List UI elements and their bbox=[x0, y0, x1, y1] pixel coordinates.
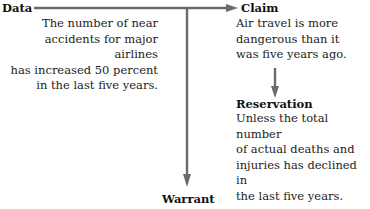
claim-arrowhead-icon bbox=[226, 4, 238, 12]
warrant-arrowhead-icon bbox=[183, 174, 191, 187]
data-label: Data bbox=[2, 2, 32, 15]
warrant-label: Warrant bbox=[162, 193, 215, 206]
data-text-line: The number of near bbox=[8, 16, 158, 32]
reservation-label: Reservation bbox=[236, 98, 313, 111]
claim-text-line: was five years ago. bbox=[236, 47, 366, 63]
claim-text-line: Air travel is more bbox=[236, 16, 366, 32]
reservation-text-line: injuries has declined in bbox=[236, 158, 370, 189]
data-text-line: has increased 50 percent bbox=[8, 63, 158, 79]
claim-label: Claim bbox=[241, 2, 279, 15]
data-text: The number of near accidents for major a… bbox=[8, 16, 158, 94]
reservation-text-line: the last five years. bbox=[236, 189, 370, 205]
reservation-text: Unless the total number of actual deaths… bbox=[236, 111, 370, 204]
data-text-line: accidents for major airlines bbox=[8, 32, 158, 63]
claim-text: Air travel is more dangerous than it was… bbox=[236, 16, 366, 63]
reservation-text-line: Unless the total number bbox=[236, 111, 370, 142]
reservation-text-line: of actual deaths and bbox=[236, 142, 370, 158]
claim-text-line: dangerous than it bbox=[236, 32, 366, 48]
data-text-line: in the last five years. bbox=[8, 78, 158, 94]
